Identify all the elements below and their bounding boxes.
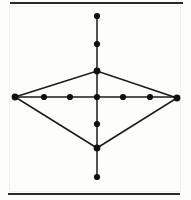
bottom-vertex (94, 145, 101, 152)
node-h-left-inner (67, 94, 73, 100)
node-center (94, 94, 100, 100)
node-v-top-inner (94, 41, 100, 47)
node-v-bottom-inner (94, 121, 100, 127)
node-h-left-outer (41, 94, 47, 100)
diamond-outline (15, 71, 177, 148)
left-vertex (12, 94, 19, 101)
figure-canvas (0, 0, 191, 200)
node-h-right-outer (147, 94, 153, 100)
right-vertex (174, 95, 181, 102)
diamond-group (15, 71, 177, 148)
node-v-top-outer (94, 13, 100, 19)
node-h-right-inner (120, 94, 126, 100)
diagram-svg (0, 0, 191, 200)
vertex-group (12, 68, 181, 152)
node-v-bottom-outer (94, 174, 100, 180)
top-vertex (94, 68, 101, 75)
